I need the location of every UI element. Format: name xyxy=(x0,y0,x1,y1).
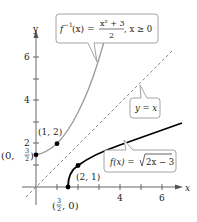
x-axis-label: x xyxy=(185,183,190,193)
point-3half-0-marker xyxy=(66,185,71,190)
svg-text:2x − 3: 2x − 3 xyxy=(146,157,174,167)
svg-text:x² + 3: x² + 3 xyxy=(100,19,125,28)
x-axis-arrow-icon xyxy=(175,185,183,190)
point-3half-0-label: ( 3 2 , 0) xyxy=(52,197,79,213)
svg-text:3: 3 xyxy=(25,147,29,155)
identity-callout: y = x xyxy=(130,85,160,118)
point-1-2-marker xyxy=(55,141,60,146)
y-axis-label: y xyxy=(32,24,39,34)
inverse-function-callout: f −1 (x) = x² + 3 2 , x ≥ 0 xyxy=(56,14,158,62)
svg-text:y = x: y = x xyxy=(134,103,157,113)
svg-text:(x) =: (x) = xyxy=(72,24,95,34)
svg-text:f(x) =: f(x) = xyxy=(109,157,134,167)
x-tick-label-4: 4 xyxy=(117,193,123,203)
svg-text:(: ( xyxy=(52,200,56,211)
point-2-1-marker xyxy=(76,163,81,168)
point-0-3half-label: (0, 3 2 ) xyxy=(1,147,34,163)
svg-text:, 0): , 0) xyxy=(62,200,79,211)
point-0-3half-marker xyxy=(34,152,39,157)
svg-text:2: 2 xyxy=(25,155,29,163)
axes: y x 4 6 2 4 6 xyxy=(22,24,190,205)
svg-text:2: 2 xyxy=(57,205,61,213)
point-1-2-label: (1, 2) xyxy=(38,127,62,137)
svg-text:): ) xyxy=(30,150,34,161)
svg-text:, x ≥ 0: , x ≥ 0 xyxy=(124,24,152,34)
svg-text:3: 3 xyxy=(57,197,61,205)
inverse-function-curve xyxy=(36,42,104,155)
y-tick-label-4: 4 xyxy=(24,95,30,105)
function-inverse-graph: y x 4 6 2 4 6 (1, 2) (0, 3 2 ) (2, 1) ( … xyxy=(0,0,197,222)
function-callout: f(x) = 2x − 3 xyxy=(104,140,176,172)
y-tick-label-6: 6 xyxy=(24,52,30,62)
point-2-1-label: (2, 1) xyxy=(76,172,100,182)
svg-text:2: 2 xyxy=(109,31,114,40)
x-tick-label-6: 6 xyxy=(159,193,165,203)
svg-text:(0,: (0, xyxy=(1,150,14,161)
